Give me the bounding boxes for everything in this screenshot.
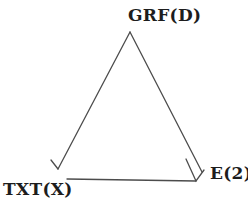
node-label-txt: TXT(X) <box>3 181 73 199</box>
edge-grf-to-txt <box>58 32 130 169</box>
triangle-diagram: GRF(D) TXT(X) E(2) <box>0 0 248 205</box>
arrowhead-txt-icon <box>51 160 58 169</box>
edge-txt-to-e <box>67 179 196 181</box>
node-label-e: E(2) <box>210 165 248 183</box>
edge-grf-to-e <box>130 32 202 172</box>
node-label-grf: GRF(D) <box>128 7 201 25</box>
